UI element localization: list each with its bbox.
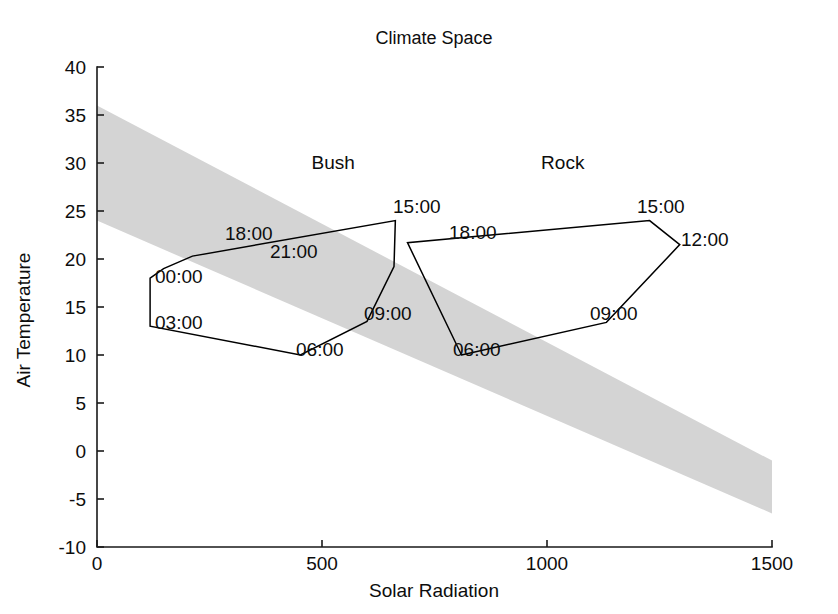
time-point-label: 03:00 xyxy=(155,312,203,333)
group-label-bush: Bush xyxy=(312,152,355,173)
climate-space-chart: -10-50510152025303540050010001500 15:001… xyxy=(0,0,838,614)
y-tick-label: 10 xyxy=(65,345,86,366)
time-point-label: 06:00 xyxy=(296,339,344,360)
time-point-label: 21:00 xyxy=(270,241,318,262)
time-point-label: 12:00 xyxy=(681,229,729,250)
group-label-rock: Rock xyxy=(541,152,585,173)
time-point-label: 15:00 xyxy=(393,196,441,217)
y-tick-label: 20 xyxy=(65,249,86,270)
y-tick-label: 30 xyxy=(65,153,86,174)
time-point-label: 15:00 xyxy=(637,196,685,217)
y-tick-label: 35 xyxy=(65,105,86,126)
x-tick-label: 500 xyxy=(306,553,338,574)
group-annotation-layer: BushRock xyxy=(312,152,585,173)
band-thermoneutral-zone xyxy=(97,105,772,513)
y-tick-label: 5 xyxy=(75,393,86,414)
y-tick-label: 0 xyxy=(75,441,86,462)
y-tick-label: 25 xyxy=(65,201,86,222)
time-point-label: 18:00 xyxy=(225,223,273,244)
shaded-band-layer xyxy=(97,105,772,513)
y-tick-label: -10 xyxy=(59,537,86,558)
x-axis-title: Solar Radiation xyxy=(369,580,499,601)
y-tick-label: -5 xyxy=(69,489,86,510)
x-tick-label: 1500 xyxy=(751,553,793,574)
time-point-label: 18:00 xyxy=(449,222,497,243)
time-point-label: 09:00 xyxy=(364,303,412,324)
x-tick-label: 1000 xyxy=(526,553,568,574)
y-tick-label: 15 xyxy=(65,297,86,318)
time-point-label: 06:00 xyxy=(453,339,501,360)
x-tick-label: 0 xyxy=(92,553,103,574)
chart-page: -10-50510152025303540050010001500 15:001… xyxy=(0,0,838,614)
time-point-label: 00:00 xyxy=(155,266,203,287)
y-axis-title: Air Temperature xyxy=(13,253,34,388)
time-point-label: 09:00 xyxy=(590,303,638,324)
chart-title: Climate Space xyxy=(375,28,492,48)
y-tick-label: 40 xyxy=(65,57,86,78)
